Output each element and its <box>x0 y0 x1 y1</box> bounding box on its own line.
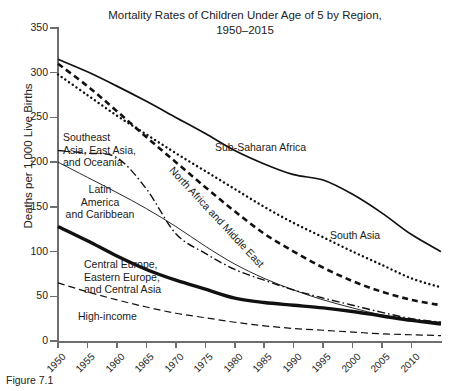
chart-figure: Mortality Rates of Children Under Age of… <box>0 0 452 391</box>
series-label-central-europe-line1: Central Europe, <box>84 258 194 271</box>
series-label-central-europe-line2: Eastern Europe, <box>84 271 186 284</box>
series-label-high-income: High-income <box>78 310 137 323</box>
series-label-latin-america-line1: Latin <box>58 183 142 196</box>
series-label-southeast-asia: Southeast Asia, East Asia, and Oceania <box>63 131 163 169</box>
series-label-central-europe: Central Europe, Eastern Europe, and Cent… <box>84 258 194 296</box>
series-label-southeast-asia-line3: and Oceania <box>63 156 163 169</box>
series-label-latin-america-line3: and Caribbean <box>58 208 142 221</box>
series-label-latin-america-line2: America <box>58 196 142 209</box>
series-label-southeast-asia-line2: Asia, East Asia, <box>63 144 163 157</box>
series-label-south-asia: South Asia <box>330 229 380 242</box>
series-label-latin-america: Latin America and Caribbean <box>58 183 142 221</box>
series-label-sub-saharan-africa: Sub-Saharan Africa <box>215 141 306 154</box>
figure-caption: Figure 7.1 <box>6 374 53 386</box>
series-line-southeast-asia-east-asia-and-oceania <box>58 151 441 323</box>
series-label-central-europe-line3: and Central Asia <box>84 283 194 296</box>
series-label-southeast-asia-line1: Southeast <box>63 131 163 144</box>
